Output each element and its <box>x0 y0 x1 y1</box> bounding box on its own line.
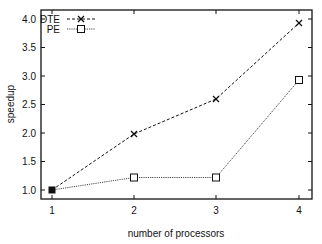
x-axis-tick-labels: 1 2 3 4 <box>49 205 302 216</box>
speedup-chart: 1.0 1.5 2.0 2.5 3.0 3.5 4.0 1 2 3 4 numb… <box>0 0 322 244</box>
y-tick-label: 3.5 <box>22 42 36 53</box>
y-axis-tick-labels: 1.0 1.5 2.0 2.5 3.0 3.5 4.0 <box>22 14 36 196</box>
x-tick-label: 4 <box>296 205 302 216</box>
square-marker-icon <box>78 26 85 33</box>
square-marker-icon <box>213 174 220 181</box>
series-pe <box>52 77 303 191</box>
series-dte <box>52 20 302 190</box>
x-marker-icon <box>131 131 137 137</box>
x-axis-ticks <box>52 10 299 199</box>
x-axis-title: number of processors <box>128 228 225 239</box>
y-axis-title: speedup <box>5 84 16 123</box>
y-axis-ticks <box>41 19 312 190</box>
square-marker-icon <box>131 174 138 181</box>
x-tick-label: 1 <box>49 205 55 216</box>
x-tick-label: 3 <box>213 205 219 216</box>
legend: DTE PE <box>40 14 95 35</box>
start-point-marker-icon <box>49 187 56 194</box>
y-tick-label: 1.5 <box>22 156 36 167</box>
x-marker-icon <box>296 20 302 26</box>
x-marker-icon <box>213 96 219 102</box>
square-marker-icon <box>296 77 303 84</box>
y-tick-label: 2.0 <box>22 128 36 139</box>
y-tick-label: 3.0 <box>22 71 36 82</box>
y-tick-label: 2.5 <box>22 99 36 110</box>
legend-label-pe: PE <box>47 24 61 35</box>
x-tick-label: 2 <box>131 205 137 216</box>
y-tick-label: 1.0 <box>22 185 36 196</box>
y-tick-label: 4.0 <box>22 14 36 25</box>
plot-frame <box>41 10 312 199</box>
